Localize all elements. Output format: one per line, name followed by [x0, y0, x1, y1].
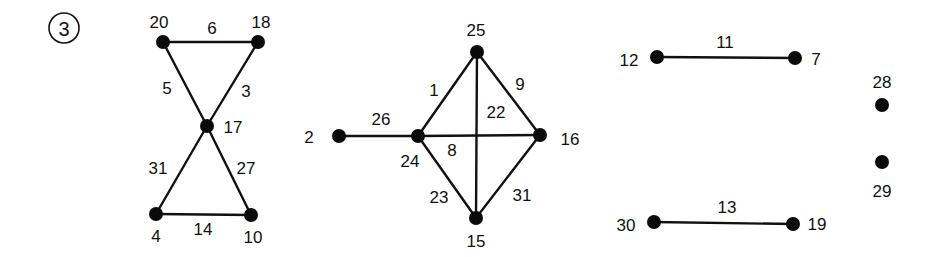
node-16 — [533, 128, 547, 142]
node-label: 18 — [252, 13, 271, 32]
node-label: 24 — [401, 152, 420, 171]
graph-diagram: 3 653312714261922823311113 2018174102242… — [0, 0, 941, 257]
node-25 — [470, 45, 484, 59]
edge-weight-label: 3 — [241, 82, 250, 101]
node-label: 15 — [467, 232, 486, 251]
problem-number-marker: 3 — [49, 13, 79, 43]
node-17 — [200, 119, 214, 133]
node-19 — [786, 217, 800, 231]
node-label: 28 — [873, 73, 892, 92]
node-label: 12 — [620, 51, 639, 70]
edge-12-7 — [657, 57, 795, 58]
edge-weight-label: 11 — [716, 33, 734, 52]
node-10 — [244, 208, 258, 222]
node-24 — [411, 129, 425, 143]
node-label: 4 — [151, 227, 160, 246]
edge-weight-label: 14 — [194, 220, 213, 239]
node-18 — [251, 35, 265, 49]
node-label: 29 — [873, 182, 892, 201]
node-20 — [156, 35, 170, 49]
edge-weight-label: 5 — [162, 79, 171, 98]
edge-24-25 — [418, 52, 477, 136]
node-label: 10 — [244, 228, 263, 247]
edge-weight-label: 23 — [430, 188, 449, 207]
problem-number: 3 — [58, 18, 69, 40]
edge-weight-label: 31 — [513, 186, 532, 205]
node-30 — [647, 215, 661, 229]
node-label: 17 — [224, 118, 243, 137]
edge-weight-label: 31 — [149, 159, 168, 178]
edges-layer — [156, 42, 795, 224]
node-12 — [650, 50, 664, 64]
edge-weight-label: 27 — [237, 159, 256, 178]
node-28 — [875, 98, 889, 112]
node-4 — [149, 207, 163, 221]
node-label: 25 — [467, 21, 486, 40]
node-2 — [332, 129, 346, 143]
edge-25-16 — [477, 52, 540, 135]
node-label: 30 — [617, 216, 636, 235]
node-label: 16 — [561, 130, 580, 149]
node-15 — [469, 211, 483, 225]
node-29 — [875, 155, 889, 169]
edge-weight-label: 8 — [447, 141, 456, 160]
edge-weight-label: 26 — [372, 110, 391, 129]
edge-weight-label: 13 — [718, 198, 737, 217]
edge-weight-label: 6 — [207, 19, 216, 38]
edge-30-19 — [654, 222, 793, 224]
node-label: 19 — [808, 215, 827, 234]
edge-4-10 — [156, 214, 251, 215]
edge-24-16 — [418, 135, 540, 136]
node-label: 20 — [150, 13, 169, 32]
node-label: 7 — [811, 50, 820, 69]
edge-weight-label: 1 — [429, 81, 438, 100]
edge-weight-label: 22 — [487, 103, 506, 122]
edge-weight-label: 9 — [515, 75, 524, 94]
edge-16-15 — [476, 135, 540, 218]
node-label: 2 — [304, 128, 313, 147]
node-7 — [788, 51, 802, 65]
